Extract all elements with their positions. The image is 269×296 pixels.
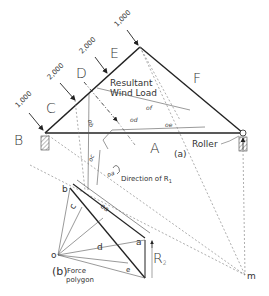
point-d-label: d [97, 242, 103, 252]
point-m-label: m [247, 271, 256, 281]
region-e-label: E [110, 45, 119, 61]
resultant-label-line1: Resultant [110, 78, 153, 88]
point-c-label: c [67, 202, 78, 211]
load-arrow-2 [60, 83, 75, 100]
ray-oc-label: oc [86, 153, 95, 163]
roller-leader [221, 136, 239, 144]
point-b-label: b [62, 184, 68, 194]
load-arrow-3 [95, 57, 107, 73]
region-a-label: A [150, 140, 160, 156]
load-label-2: 2,000 [46, 62, 66, 82]
load-label-3: 2,000 [78, 36, 98, 56]
force-polygon-title-line2: polygon [66, 276, 94, 284]
load-arrow-4 [127, 30, 138, 45]
force-polygon-title-line1: Force [67, 267, 86, 275]
right-support-roller [239, 130, 247, 151]
left-support [41, 136, 49, 150]
ray-oa-label: oa [106, 169, 116, 178]
reaction-r2-label: R2 [153, 250, 167, 266]
direction-r1-label: Direction of R1 [121, 175, 172, 184]
ray-ob-label: ob [87, 119, 95, 128]
roller-label: Roller [192, 139, 218, 149]
resultant-label-line2: Wind Load [110, 88, 157, 98]
region-f-label: F [193, 70, 201, 86]
ray-oe-label: oe [165, 121, 173, 128]
load-label-4: 1,000 [113, 9, 133, 29]
part-a-label: (a) [174, 149, 187, 159]
force-polygon [58, 180, 152, 278]
region-b-label: B [14, 132, 23, 148]
ray-od-label: od [130, 116, 138, 123]
ray-oa-polygon-label: oa [99, 202, 111, 213]
truss-wind-load-diagram: 1,000 2,000 2,000 1,000 B C D E F A Resu… [0, 0, 269, 296]
ray-of-label: of [146, 104, 153, 111]
point-e-label: e [126, 266, 130, 274]
point-o-label: o [51, 250, 57, 260]
load-label-1: 1,000 [14, 90, 34, 110]
region-d-label: D [76, 65, 87, 81]
load-arrow-1 [29, 113, 43, 130]
point-a-label: a [136, 237, 142, 247]
region-c-label: C [46, 100, 56, 116]
